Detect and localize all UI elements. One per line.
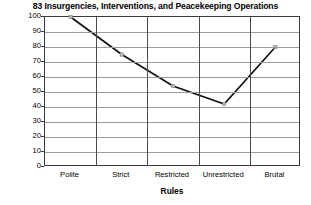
series-line-operations — [71, 17, 276, 104]
y-tick-label: 20 — [1, 132, 41, 140]
gridline-horizontal — [45, 62, 299, 63]
x-tick-label: Brutal — [249, 170, 300, 179]
gridline-horizontal — [45, 47, 299, 48]
y-tick-label: 50 — [1, 87, 41, 95]
y-tick-mark — [41, 166, 44, 167]
gridline-horizontal — [45, 92, 299, 93]
y-tick-label: 100 — [1, 12, 41, 20]
x-axis-title: Rules — [44, 186, 300, 196]
y-tick-label: 70 — [1, 57, 41, 65]
y-tick-label: 90 — [1, 27, 41, 35]
data-point-marker — [120, 53, 123, 56]
chart-title: 83 Insurgencies, Interventions, and Peac… — [0, 1, 311, 11]
y-tick-label: 0 — [1, 162, 41, 170]
y-tick-label: 10 — [1, 147, 41, 155]
x-tick-label: Unrestricted — [198, 170, 249, 179]
gridline-vertical — [250, 17, 251, 165]
x-axis: PoliteStrictRestrictedUnrestrictedBrutal — [44, 170, 300, 182]
gridline-vertical — [147, 17, 148, 165]
gridline-vertical — [96, 17, 97, 165]
data-point-marker — [171, 84, 174, 87]
y-tick-label: 60 — [1, 72, 41, 80]
line-chart: 83 Insurgencies, Interventions, and Peac… — [0, 0, 311, 205]
y-tick-label: 30 — [1, 117, 41, 125]
data-point-marker — [69, 15, 72, 18]
plot-area — [44, 16, 300, 166]
x-tick-label: Restricted — [146, 170, 197, 179]
y-tick-label: 40 — [1, 102, 41, 110]
y-tick-label: 80 — [1, 42, 41, 50]
gridline-horizontal — [45, 152, 299, 153]
gridline-horizontal — [45, 107, 299, 108]
gridline-vertical — [199, 17, 200, 165]
y-axis: 0102030405060708090100 — [0, 16, 41, 166]
gridline-horizontal — [45, 122, 299, 123]
data-point-marker — [223, 102, 226, 105]
x-tick-label: Strict — [95, 170, 146, 179]
gridline-horizontal — [45, 32, 299, 33]
x-tick-label: Polite — [44, 170, 95, 179]
gridline-horizontal — [45, 137, 299, 138]
gridline-horizontal — [45, 77, 299, 78]
